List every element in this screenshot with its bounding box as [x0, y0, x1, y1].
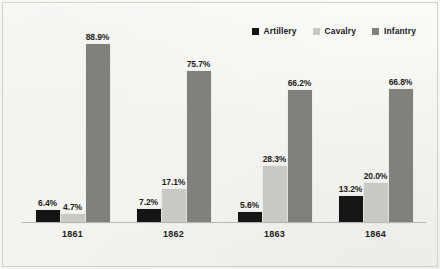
bar-slot-infantry-1862: 75.7% [187, 22, 211, 223]
bar-value-label: 17.1% [162, 177, 186, 187]
legend-swatch-cavalry [313, 28, 320, 35]
chart-legend: Artillery Cavalry Infantry [252, 26, 416, 36]
bar-slot-cavalry-1862: 17.1% [162, 22, 186, 223]
bar-value-label: 88.9% [86, 32, 110, 42]
bar-slot-cavalry-1861: 4.7% [61, 22, 85, 223]
bar-chart-figure: Artillery Cavalry Infantry 6.4% 4.7% [0, 0, 440, 269]
legend-swatch-infantry [372, 28, 379, 35]
bar-slot-infantry-1863: 66.2% [288, 22, 312, 223]
bar-slot-artillery-1864: 13.2% [339, 22, 363, 223]
bar-group-1861: 6.4% 4.7% 88.9% [22, 22, 123, 223]
bar-group-1864: 13.2% 20.0% 66.8% [325, 22, 426, 223]
bar-value-label: 66.8% [389, 77, 413, 87]
bar-slot-artillery-1862: 7.2% [137, 22, 161, 223]
legend-item-artillery: Artillery [252, 26, 297, 36]
x-axis-tick-labels: 1861 1862 1863 1864 [22, 229, 426, 247]
bar-groups: 6.4% 4.7% 88.9% 7.2% [22, 22, 426, 223]
bar-value-label: 13.2% [339, 184, 363, 194]
bar-value-label: 28.3% [263, 154, 287, 164]
plot-area: 6.4% 4.7% 88.9% 7.2% [22, 22, 426, 223]
x-tick-1864: 1864 [325, 229, 426, 247]
bar-cavalry-1863: 28.3% [263, 166, 287, 223]
bar-value-label: 7.2% [139, 197, 158, 207]
bar-value-label: 6.4% [38, 198, 57, 208]
x-tick-1863: 1863 [224, 229, 325, 247]
bar-artillery-1864: 13.2% [339, 196, 363, 223]
bar-cavalry-1862: 17.1% [162, 189, 186, 223]
bar-slot-cavalry-1863: 28.3% [263, 22, 287, 223]
legend-item-infantry: Infantry [372, 26, 416, 36]
bar-slot-artillery-1863: 5.6% [238, 22, 262, 223]
x-tick-1861: 1861 [22, 229, 123, 247]
bar-value-label: 20.0% [364, 171, 388, 181]
bar-value-label: 4.7% [63, 202, 82, 212]
x-axis-line [22, 222, 426, 223]
x-tick-1862: 1862 [123, 229, 224, 247]
bar-slot-cavalry-1864: 20.0% [364, 22, 388, 223]
bar-value-label: 75.7% [187, 59, 211, 69]
bar-group-1862: 7.2% 17.1% 75.7% [123, 22, 224, 223]
bar-value-label: 66.2% [288, 78, 312, 88]
bar-infantry-1864: 66.8% [389, 89, 413, 223]
bar-infantry-1862: 75.7% [187, 71, 211, 223]
bar-cavalry-1864: 20.0% [364, 183, 388, 223]
legend-label-artillery: Artillery [264, 26, 297, 36]
bar-infantry-1863: 66.2% [288, 90, 312, 223]
bar-infantry-1861: 88.9% [86, 44, 110, 223]
bar-value-label: 5.6% [240, 200, 259, 210]
legend-swatch-artillery [252, 28, 259, 35]
bar-slot-infantry-1861: 88.9% [86, 22, 110, 223]
bar-slot-infantry-1864: 66.8% [389, 22, 413, 223]
legend-item-cavalry: Cavalry [313, 26, 356, 36]
legend-label-cavalry: Cavalry [325, 26, 356, 36]
bar-artillery-1862: 7.2% [137, 209, 161, 223]
legend-label-infantry: Infantry [384, 26, 416, 36]
bar-group-1863: 5.6% 28.3% 66.2% [224, 22, 325, 223]
bar-slot-artillery-1861: 6.4% [36, 22, 60, 223]
